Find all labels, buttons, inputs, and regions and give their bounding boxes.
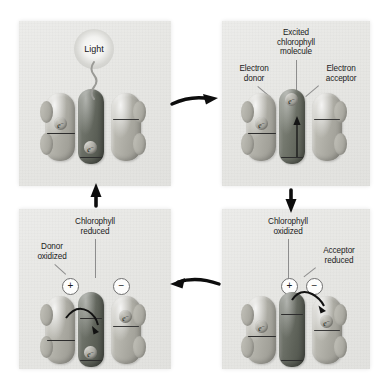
donor-lobe-upper	[40, 304, 53, 326]
oxidized-chlorophyll-molecule	[279, 292, 305, 367]
donor-lobe-upper	[241, 304, 254, 326]
molecule-group: e− e−	[45, 89, 145, 164]
panel-excited-chlorophyll: Excited chlorophyll molecule Electron do…	[222, 21, 370, 186]
arrow-top-left-to-top-right	[172, 94, 218, 105]
donor-lobe-lower	[241, 133, 254, 155]
acceptor-lobe-lower	[133, 133, 146, 155]
label-electron-donor: Electron donor	[228, 64, 280, 83]
leader-line-acceptor	[304, 267, 316, 277]
acceptor-lobe-lower	[334, 336, 347, 358]
electron-donor-molecule	[45, 296, 75, 364]
panel-chlorophyll-oxidized: Chlorophyll oxidized Acceptor reduced + …	[222, 209, 370, 369]
electron-acceptor-molecule	[312, 93, 342, 161]
molecule-group: e− e−	[246, 89, 346, 164]
electron-charge: −	[262, 323, 265, 329]
chlorophyll-electron: e−	[84, 141, 97, 154]
donor-electron: e−	[255, 320, 268, 333]
donor-lobe-upper	[40, 101, 53, 123]
label-electron-acceptor: Electron acceptor	[314, 64, 368, 83]
molecule-group: e− e−	[246, 292, 346, 367]
panel-light-absorption: Light e− e−	[19, 21, 171, 186]
arrow-bottom-right-to-bottom-left	[170, 278, 219, 289]
label-excited-chlorophyll-molecule: Excited chlorophyll molecule	[260, 28, 332, 57]
electron-acceptor-molecule	[111, 296, 141, 364]
panel-donor-oxidized: Chlorophyll reduced Donor oxidized + − e…	[19, 209, 171, 369]
electron-charge: −	[292, 96, 295, 102]
arrow-bottom-left-to-top-left	[91, 183, 102, 206]
donor-electron: e−	[54, 117, 67, 130]
electron-charge: −	[91, 144, 94, 150]
electron-acceptor-molecule	[111, 93, 141, 161]
donor-electron: e−	[255, 117, 268, 130]
chlorophyll-excited-electron: e−	[285, 93, 298, 106]
light-source-glow: Light	[74, 29, 114, 69]
acceptor-lobe-upper	[334, 304, 347, 326]
electron-charge: −	[262, 120, 265, 126]
acceptor-electron: e−	[320, 315, 333, 328]
leader-line-donor	[54, 264, 66, 275]
chlorophyll-electron: e−	[84, 346, 97, 359]
leader-line-chlorophyll	[288, 239, 289, 278]
label-donor-oxidized: Donor oxidized	[25, 242, 79, 261]
acceptor-lobe-lower	[133, 336, 146, 358]
photosystem-cycle-diagram: Light e− e− Excited chlorophyll mol	[0, 0, 382, 383]
electron-charge: −	[61, 120, 64, 126]
label-acceptor-reduced: Acceptor reduced	[312, 246, 366, 265]
label-chlorophyll-reduced: Chlorophyll reduced	[59, 217, 131, 236]
donor-lobe-upper	[241, 101, 254, 123]
donor-lobe-lower	[241, 336, 254, 358]
leader-line-center	[296, 60, 297, 92]
label-chlorophyll-oxidized: Chlorophyll oxidized	[252, 217, 324, 236]
electron-charge: −	[91, 349, 94, 355]
acceptor-electron: e−	[119, 310, 132, 323]
acceptor-lobe-lower	[334, 133, 347, 155]
acceptor-lobe-upper	[133, 304, 146, 326]
donor-lobe-lower	[40, 133, 53, 155]
electron-charge: −	[327, 318, 330, 324]
molecule-group: e− e−	[45, 292, 145, 367]
leader-line-chlorophyll	[95, 239, 96, 278]
electron-charge: −	[126, 313, 129, 319]
